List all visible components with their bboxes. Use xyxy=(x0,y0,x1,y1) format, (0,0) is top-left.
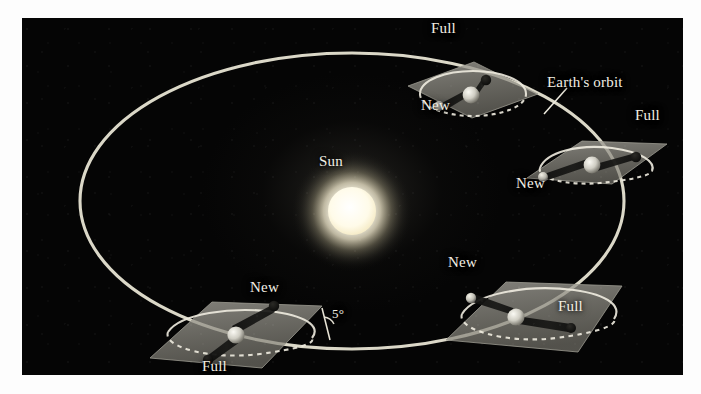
bottom-right-panel-new-label: New xyxy=(448,254,477,271)
bottom-right-panel-group xyxy=(446,282,622,352)
right-panel-new-label: New xyxy=(516,175,545,192)
inclination-label: 5° xyxy=(332,306,344,322)
right-panel-group xyxy=(527,141,667,184)
sun-graphic xyxy=(290,149,414,273)
bottom-left-panel-new-label: New xyxy=(250,279,279,296)
top-panel-new-label: New xyxy=(421,97,450,114)
top-panel-full-label: Full xyxy=(431,20,456,37)
earth-orbit-leader-line xyxy=(544,88,567,114)
earth-orbit-label: Earth's orbit xyxy=(547,74,623,91)
bottom-right-panel-full-label: Full xyxy=(558,298,583,315)
bottom-left-panel-group xyxy=(150,301,322,368)
figure-plate: Sun Earth's orbit 5° Full New Full New N… xyxy=(0,0,701,394)
diagram-vector-layer xyxy=(22,18,683,375)
sun-label: Sun xyxy=(319,153,343,170)
right-panel-full-label: Full xyxy=(635,107,660,124)
diagram-canvas: Sun Earth's orbit 5° Full New Full New N… xyxy=(22,18,683,375)
bottom-left-panel-full-label: Full xyxy=(202,358,227,375)
